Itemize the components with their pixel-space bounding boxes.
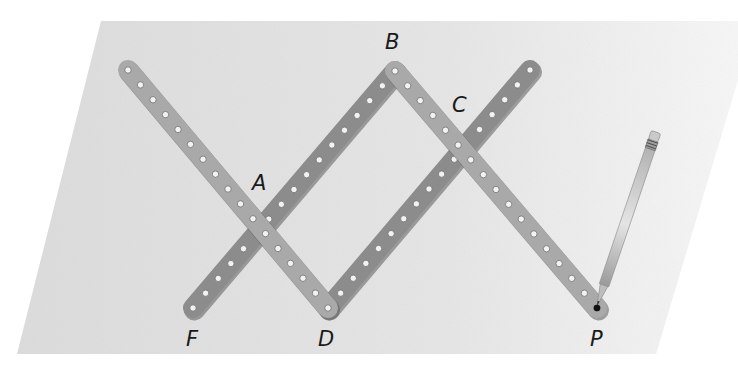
- pencil-point-dot: [594, 305, 601, 312]
- label-point-d: D: [318, 327, 334, 351]
- bar-hole: [502, 97, 508, 103]
- bar-hole: [287, 260, 293, 266]
- bar-hole: [480, 171, 486, 177]
- bar-hole: [329, 142, 335, 148]
- pantograph-diagram: ABCDFP: [0, 0, 738, 367]
- bar-hole: [363, 260, 369, 266]
- bar-hole: [190, 305, 196, 311]
- label-point-p: P: [590, 327, 603, 351]
- bar-hole: [442, 127, 448, 133]
- bar-hole: [291, 186, 297, 192]
- bar-hole: [476, 126, 482, 132]
- bar-hole: [489, 111, 495, 117]
- bar-hole: [430, 112, 436, 118]
- bar-hole: [341, 127, 347, 133]
- bar-hole: [300, 275, 306, 281]
- bar-hole: [543, 246, 549, 252]
- bar-hole: [225, 186, 231, 192]
- bar-hole: [350, 275, 356, 281]
- bar-hole: [175, 126, 181, 132]
- bar-hole: [250, 216, 256, 222]
- bar-hole: [375, 245, 381, 251]
- bar-hole: [275, 245, 281, 251]
- bar-hole: [413, 201, 419, 207]
- bar-hole: [569, 275, 575, 281]
- bar-hole: [556, 260, 562, 266]
- bar-hole: [468, 157, 474, 163]
- bar-hole: [162, 111, 168, 117]
- bar-hole: [200, 156, 206, 162]
- bar-hole: [426, 186, 432, 192]
- bar-hole: [212, 171, 218, 177]
- label-point-c: C: [452, 93, 467, 117]
- bar-hole: [215, 275, 221, 281]
- label-point-b: B: [385, 30, 399, 54]
- bar-hole: [438, 171, 444, 177]
- bar-hole: [303, 171, 309, 177]
- bar-hole: [262, 230, 268, 236]
- bar-hole: [228, 260, 234, 266]
- bar-hole: [404, 83, 410, 89]
- bar-hole: [312, 290, 318, 296]
- bar-hole: [150, 97, 156, 103]
- bar-hole: [337, 290, 343, 296]
- bar-hole: [187, 141, 193, 147]
- bar-hole: [417, 97, 423, 103]
- bar-hole: [518, 216, 524, 222]
- bar-hole: [401, 216, 407, 222]
- bar-hole: [392, 68, 398, 74]
- bar-hole: [527, 67, 533, 73]
- bar-hole: [455, 142, 461, 148]
- bar-hole: [202, 290, 208, 296]
- bar-hole: [505, 201, 511, 207]
- bar-hole: [514, 82, 520, 88]
- bar-hole: [316, 157, 322, 163]
- label-point-a: A: [250, 171, 266, 195]
- bar-hole: [325, 305, 331, 311]
- bar-hole: [581, 290, 587, 296]
- bar-hole: [278, 201, 284, 207]
- bar-hole: [367, 97, 373, 103]
- bar-hole: [125, 67, 131, 73]
- bar-hole: [379, 83, 385, 89]
- bar-hole: [240, 246, 246, 252]
- bar-hole: [354, 112, 360, 118]
- bar-hole: [388, 230, 394, 236]
- label-point-f: F: [186, 327, 199, 351]
- bar-hole: [137, 82, 143, 88]
- bar-hole: [531, 231, 537, 237]
- bar-hole: [493, 186, 499, 192]
- bar-hole: [237, 201, 243, 207]
